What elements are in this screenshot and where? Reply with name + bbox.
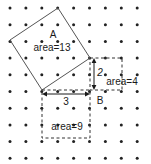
lattice-dot bbox=[24, 57, 27, 60]
pythagorean-dot-lattice-figure: A area=13 2 area=4 3 area=9 B bbox=[0, 0, 151, 164]
lattice-dot bbox=[24, 123, 27, 126]
lattice-dot bbox=[136, 157, 139, 160]
lattice-dot bbox=[24, 73, 27, 76]
lattice-dot bbox=[136, 107, 139, 110]
lattice-dot bbox=[40, 157, 43, 160]
label-square-a-area: area=13 bbox=[34, 42, 71, 53]
lattice-dot bbox=[72, 73, 75, 76]
lattice-dot bbox=[24, 157, 27, 160]
lattice-dot bbox=[88, 157, 91, 160]
lattice-dot bbox=[104, 57, 107, 60]
lattice-dot bbox=[72, 57, 75, 60]
label-large-square-area: area=9 bbox=[51, 121, 83, 132]
lattice-dot bbox=[120, 7, 123, 10]
lattice-dot bbox=[120, 157, 123, 160]
lattice-dot bbox=[9, 123, 12, 126]
lattice-dot bbox=[72, 23, 75, 26]
lattice-dot bbox=[120, 40, 123, 43]
lattice-dot bbox=[56, 107, 59, 110]
lattice-dot bbox=[120, 23, 123, 26]
lattice-dot bbox=[9, 7, 12, 10]
lattice-dot bbox=[24, 23, 27, 26]
lattice-dot bbox=[120, 107, 123, 110]
lattice-dot bbox=[9, 140, 12, 143]
lattice-dot bbox=[136, 57, 139, 60]
lattice-dot bbox=[104, 7, 107, 10]
lattice-dot bbox=[136, 123, 139, 126]
lattice-dot bbox=[72, 140, 75, 143]
lattice-dot bbox=[72, 7, 75, 10]
label-small-square-area: area=4 bbox=[106, 76, 138, 87]
lattice-dot bbox=[40, 140, 43, 143]
lattice-dot bbox=[40, 23, 43, 26]
label-square-a: A bbox=[50, 29, 57, 40]
lattice-dot bbox=[136, 7, 139, 10]
lattice-dot bbox=[9, 107, 12, 110]
lattice-dot bbox=[56, 140, 59, 143]
lattice-dot bbox=[9, 73, 12, 76]
lattice-dot bbox=[24, 107, 27, 110]
lattice-dot bbox=[72, 157, 75, 160]
lattice-dot bbox=[72, 90, 75, 93]
lattice-dot bbox=[136, 140, 139, 143]
lattice-dot bbox=[88, 23, 91, 26]
lattice-dot bbox=[104, 40, 107, 43]
lattice-dot bbox=[56, 157, 59, 160]
lattice-dot bbox=[24, 40, 27, 43]
lattice-dot bbox=[120, 140, 123, 143]
lattice-dot bbox=[9, 157, 12, 160]
lattice-dot bbox=[88, 40, 91, 43]
lattice-dot bbox=[24, 140, 27, 143]
diagram-canvas: A area=13 2 area=4 3 area=9 B bbox=[0, 0, 151, 164]
lattice-dot bbox=[88, 140, 91, 143]
lattice-dot bbox=[136, 40, 139, 43]
lattice-dot bbox=[104, 23, 107, 26]
lattice-dot bbox=[9, 23, 12, 26]
lattice-dot bbox=[9, 57, 12, 60]
lattice-dot bbox=[24, 90, 27, 93]
lattice-dot bbox=[56, 57, 59, 60]
lattice-dot bbox=[104, 107, 107, 110]
lattice-dot bbox=[136, 90, 139, 93]
lattice-dot bbox=[88, 7, 91, 10]
lattice-dot bbox=[104, 157, 107, 160]
lattice-dot bbox=[56, 73, 59, 76]
lattice-dot bbox=[120, 123, 123, 126]
label-triangle-b: B bbox=[97, 95, 104, 106]
vertical-measure-arrow bbox=[92, 58, 97, 90]
lattice-dot bbox=[9, 90, 12, 93]
lattice-dot bbox=[72, 107, 75, 110]
label-large-square-side: 3 bbox=[63, 96, 69, 107]
lattice-dot bbox=[72, 40, 75, 43]
lattice-dot bbox=[120, 90, 123, 93]
lattice-dot bbox=[104, 140, 107, 143]
lattice-dot bbox=[40, 73, 43, 76]
lattice-dot bbox=[56, 23, 59, 26]
lattice-dot bbox=[40, 57, 43, 60]
lattice-dot bbox=[104, 123, 107, 126]
lattice-dot bbox=[136, 23, 139, 26]
label-small-square-side: 2 bbox=[96, 67, 103, 78]
lattice-dot bbox=[24, 7, 27, 10]
lattice-dot bbox=[40, 7, 43, 10]
